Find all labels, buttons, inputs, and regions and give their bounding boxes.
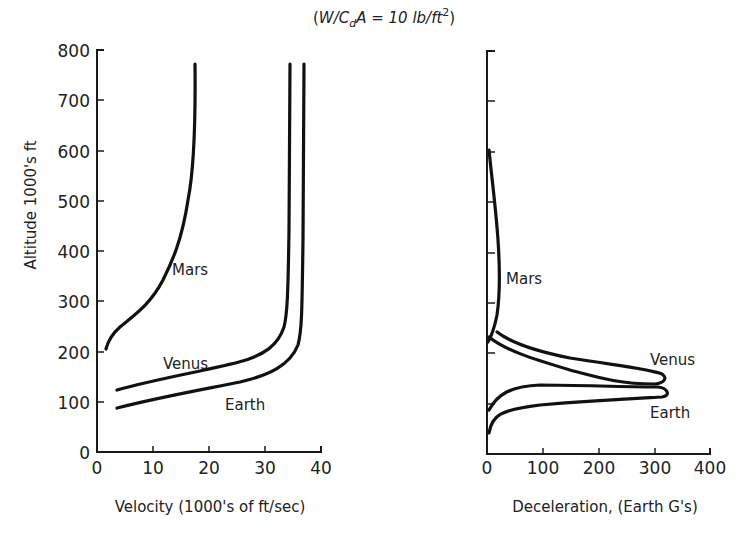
deceleration-y-ticks: [487, 101, 495, 404]
svg-text:500: 500: [58, 192, 90, 212]
svg-text:400: 400: [694, 458, 726, 478]
venus-velocity-curve: [117, 64, 290, 390]
svg-text:400: 400: [58, 242, 90, 262]
chart-title: (W/CdA = 10 lb/ft2): [313, 6, 455, 30]
chart-figure: (W/CdA = 10 lb/ft2) 800 700 600 500 400 …: [0, 0, 741, 537]
svg-text:100: 100: [58, 393, 90, 413]
earth-deceleration-curve: [489, 385, 667, 433]
svg-text:40: 40: [310, 458, 332, 478]
venus-velocity-label: Venus: [163, 355, 208, 373]
svg-text:30: 30: [254, 458, 276, 478]
mars-velocity-curve: [106, 64, 195, 349]
svg-text:0: 0: [482, 458, 493, 478]
velocity-y-tick-labels: 800 700 600 500 400 300 200 100 0: [58, 41, 90, 463]
svg-text:0: 0: [92, 458, 103, 478]
deceleration-x-axis-label: Deceleration, (Earth G's): [512, 498, 698, 516]
earth-velocity-curve: [117, 64, 304, 408]
velocity-x-axis-label: Velocity (1000's of ft/sec): [115, 498, 306, 516]
velocity-panel: 800 700 600 500 400 300 200 100 0 0 10 2…: [22, 41, 332, 516]
venus-deceleration-curve: [489, 332, 665, 384]
venus-deceleration-label: Venus: [650, 351, 695, 369]
svg-text:300: 300: [58, 292, 90, 312]
svg-text:200: 200: [58, 343, 90, 363]
svg-text:100: 100: [527, 458, 559, 478]
svg-text:800: 800: [58, 41, 90, 61]
svg-text:10: 10: [142, 458, 164, 478]
svg-text:20: 20: [198, 458, 220, 478]
mars-deceleration-label: Mars: [506, 270, 542, 288]
svg-text:600: 600: [58, 142, 90, 162]
svg-text:0: 0: [79, 443, 90, 463]
earth-deceleration-label: Earth: [650, 404, 690, 422]
mars-deceleration-curve: [488, 150, 499, 342]
deceleration-panel: 0 100 200 300 400 Deceleration, (Earth G…: [482, 51, 727, 516]
svg-text:700: 700: [58, 91, 90, 111]
svg-text:300: 300: [639, 458, 671, 478]
earth-velocity-label: Earth: [225, 396, 265, 414]
deceleration-axes: [487, 51, 710, 454]
velocity-y-ticks: [97, 100, 104, 402]
altitude-y-axis-label: Altitude 1000's ft: [22, 140, 40, 269]
deceleration-x-tick-labels: 0 100 200 300 400: [482, 458, 727, 478]
svg-text:200: 200: [583, 458, 615, 478]
mars-velocity-label: Mars: [172, 261, 208, 279]
velocity-x-tick-labels: 0 10 20 30 40: [92, 458, 332, 478]
